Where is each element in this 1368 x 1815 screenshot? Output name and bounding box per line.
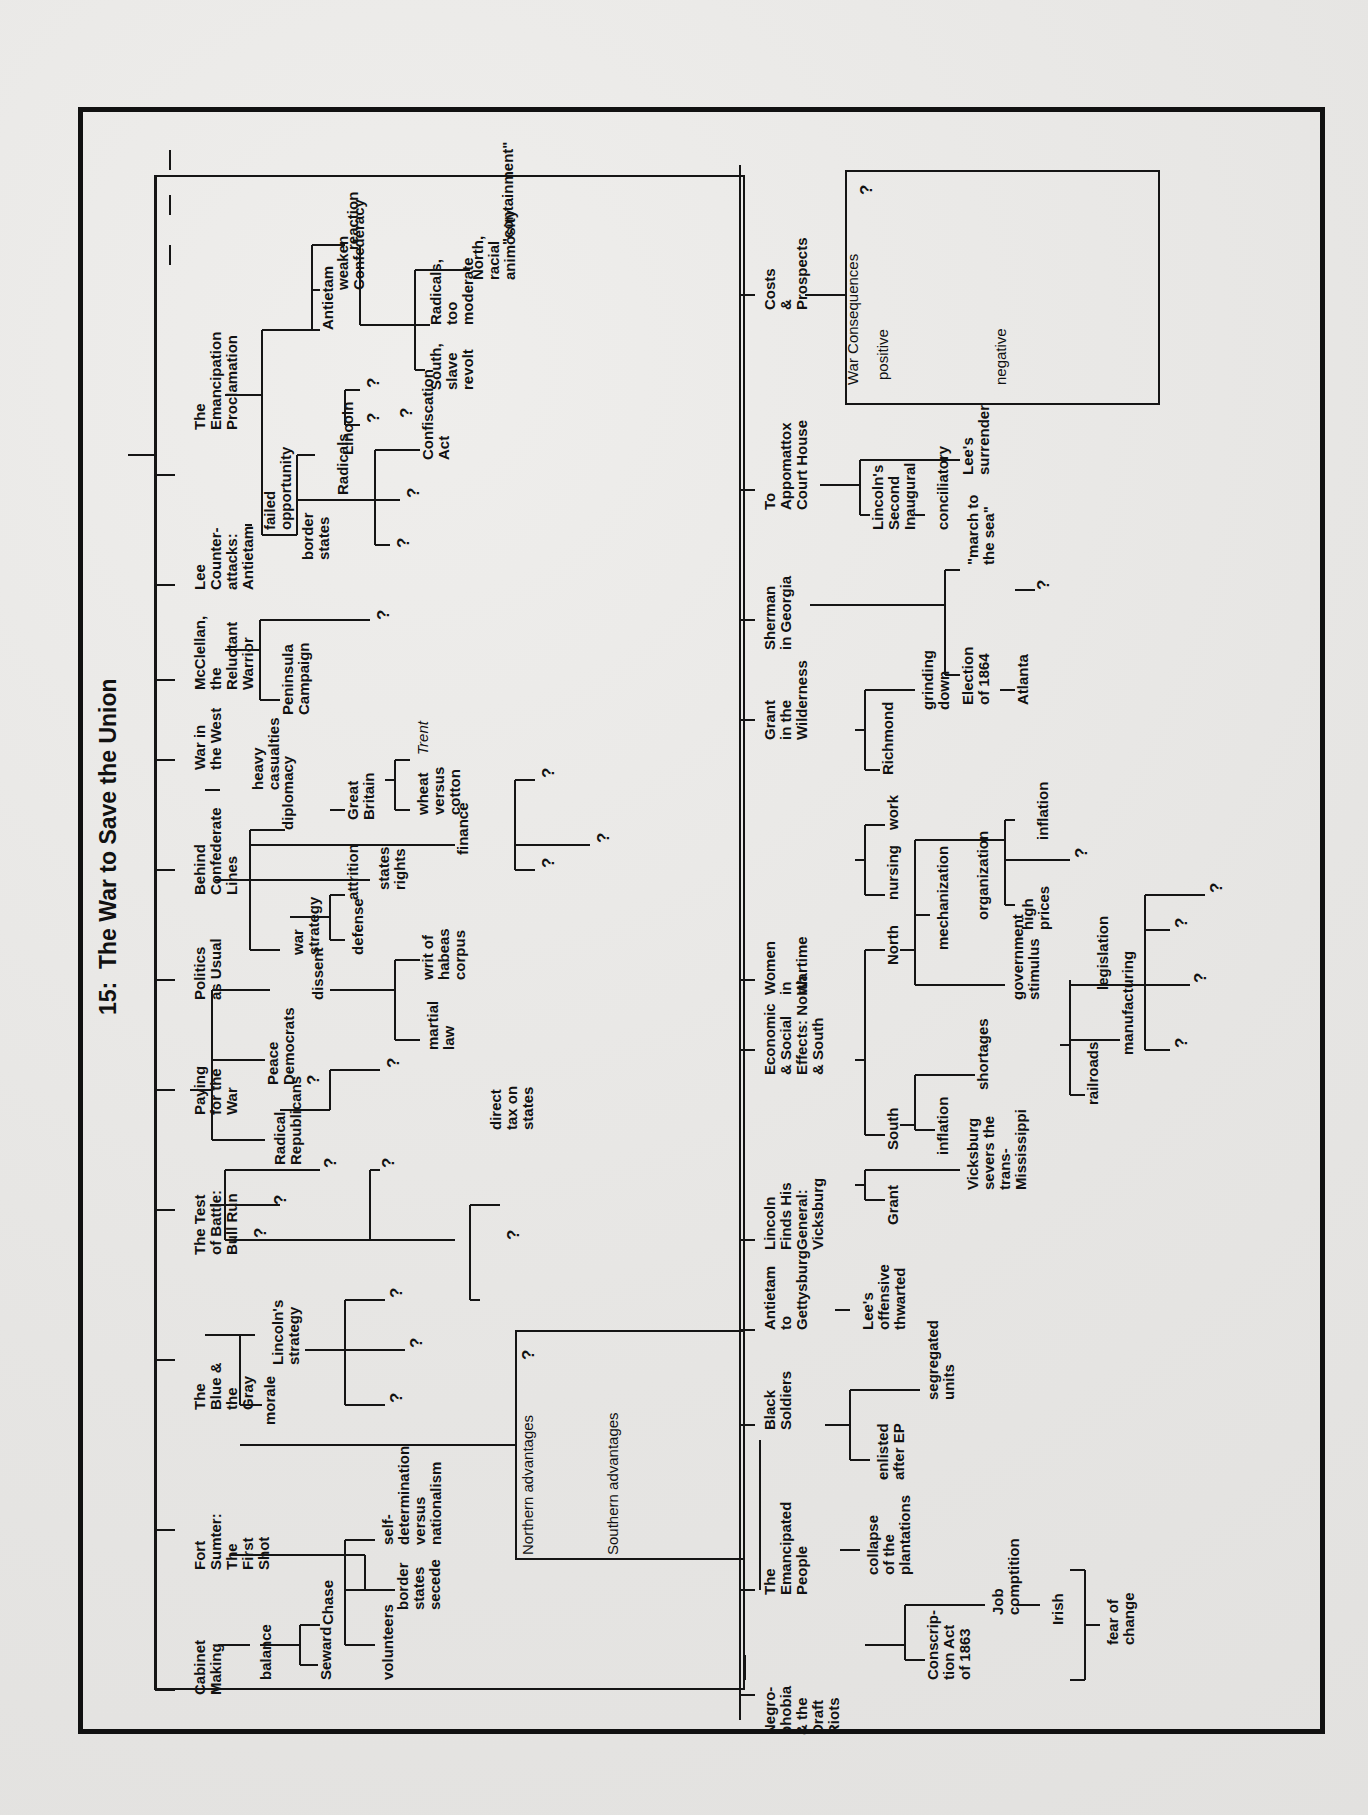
connector-line	[904, 1605, 906, 1660]
connector-line	[865, 1199, 885, 1201]
connector-line	[740, 294, 755, 296]
connector-line	[260, 1644, 300, 1646]
connector-line	[414, 270, 416, 370]
econ-north-inflation: inflation	[1035, 782, 1051, 840]
connector-line	[344, 1300, 346, 1405]
question-mark-placeholder: ?	[1173, 918, 1190, 928]
connector-line	[740, 1239, 755, 1241]
econ-manufacturing: manufacturing	[1120, 951, 1136, 1055]
vicksburg-severs-trans-mississippi: Vicksburg severs the trans- Mississippi	[965, 1109, 1029, 1190]
topic-antietam-to-gettysburg: Antietam to Gettysburg	[762, 1250, 810, 1330]
connector-line	[345, 989, 395, 991]
question-mark-placeholder: ?	[540, 858, 557, 868]
appomattox-second-inaugural: Lincoln's Second Inaugural	[870, 462, 918, 530]
northern-advantages: Northern advantages	[520, 1415, 536, 1555]
antietam-lees-offensive-thwarted: Lee's offensive thwarted	[860, 1264, 908, 1330]
connector-line	[905, 1604, 985, 1606]
connector-line	[1145, 984, 1190, 986]
draft-conscription-act: Conscrip- tion Act of 1863	[925, 1610, 973, 1680]
topic-mcclellan: McClellan, the Reluctant Warrior	[192, 616, 256, 690]
topic-cabinet-making: Cabinet Making	[192, 1640, 224, 1695]
draft-fear-of-change: fear of change	[1105, 1592, 1137, 1645]
connector-line	[300, 1624, 320, 1626]
topic-grant-wilderness: Grant in the Wilderness	[762, 660, 810, 740]
connector-line	[300, 1664, 318, 1666]
connector-line	[740, 1329, 755, 1331]
connector-line	[515, 869, 535, 871]
worksheet-page: 15: The War to Save the UnionCabinet Mak…	[0, 0, 1368, 1815]
connector-line	[218, 1644, 250, 1646]
question-mark-placeholder: ?	[408, 1338, 425, 1348]
topic-emancipation-proclamation: The Emancipation Proclamation	[192, 332, 240, 430]
confederate-war-strategy: war strategy	[290, 897, 322, 955]
connector-line	[915, 1129, 935, 1131]
question-mark-placeholder: ?	[595, 833, 612, 843]
connector-line	[1095, 984, 1145, 986]
connector-line	[469, 1205, 471, 1300]
connector-line	[394, 760, 396, 810]
women-work: work	[885, 795, 901, 830]
connector-line	[345, 1644, 375, 1646]
topic-draft-riots: Negro- phobia & the Draft Riots	[762, 1686, 842, 1735]
connector-line	[945, 569, 960, 571]
connector-line	[224, 1170, 226, 1240]
connector-line	[1145, 1049, 1170, 1051]
connector-line	[1070, 984, 1095, 986]
connector-line	[250, 1239, 455, 1241]
connector-line	[344, 390, 346, 425]
topic-sherman-georgia: Sherman in Georgia	[762, 576, 794, 650]
connector-line	[905, 1659, 925, 1661]
connector-line	[249, 830, 251, 950]
econ-north-mechanization: mechanization	[935, 846, 951, 950]
sumter-volunteers: volunteers	[380, 1604, 396, 1680]
connector-line	[944, 570, 946, 675]
topic-bull-run: The Test of Battle: Bull Run	[192, 1190, 240, 1255]
ep-containment: "containment"	[500, 142, 516, 245]
connector-line	[345, 1299, 385, 1301]
connector-line	[155, 759, 175, 761]
question-mark-placeholder: ?	[375, 610, 392, 620]
connector-line	[299, 1625, 301, 1665]
sherman-atlanta: Atlanta	[1015, 654, 1031, 705]
confederate-defense: defense	[350, 898, 366, 955]
cabinet-seward: Seward	[318, 1627, 334, 1680]
confederate-trent: Trent	[415, 721, 431, 755]
confederate-diplomacy: diplomacy	[280, 756, 296, 830]
connector-line	[344, 1540, 346, 1645]
connector-line	[262, 534, 297, 536]
connector-line	[225, 394, 262, 396]
politics-dissent: dissent	[310, 947, 326, 1000]
connector-line	[1069, 980, 1071, 1095]
connector-line	[810, 604, 945, 606]
concept-map-canvas: 15: The War to Save the UnionCabinet Mak…	[0, 0, 1368, 1815]
question-mark-placeholder: ?	[398, 408, 415, 418]
connector-line	[740, 979, 755, 981]
connector-line	[915, 914, 930, 916]
connector-line	[260, 699, 280, 701]
connector-line	[865, 1134, 885, 1136]
connector-line	[1005, 904, 1015, 906]
econ-south: South	[885, 1108, 901, 1151]
connector-line	[250, 949, 280, 951]
vicksburg-grant: Grant	[885, 1185, 901, 1225]
lee-failed-opportunity: failed opportunity	[262, 447, 294, 530]
connector-line	[169, 195, 171, 215]
connector-line	[155, 1529, 175, 1531]
connector-line	[155, 1209, 175, 1211]
topic-war-in-the-west: War in the West	[192, 708, 224, 770]
connector-line	[470, 1299, 480, 1301]
connector-line	[155, 1359, 175, 1361]
question-mark-placeholder: ?	[1035, 580, 1052, 590]
connector-line	[240, 1404, 262, 1406]
advantages-box	[515, 1330, 745, 1560]
question-mark-placeholder: ?	[540, 768, 557, 778]
connector-line	[128, 454, 155, 456]
connector-line	[210, 1204, 280, 1206]
confederate-wheat-cotton: wheat versus cotton	[415, 767, 463, 815]
connector-line	[259, 620, 261, 700]
connector-line	[312, 244, 325, 246]
connector-line	[260, 619, 370, 621]
question-mark-placeholder: ?	[305, 1075, 322, 1085]
connector-line	[1015, 589, 1035, 591]
connector-line	[345, 1589, 395, 1591]
